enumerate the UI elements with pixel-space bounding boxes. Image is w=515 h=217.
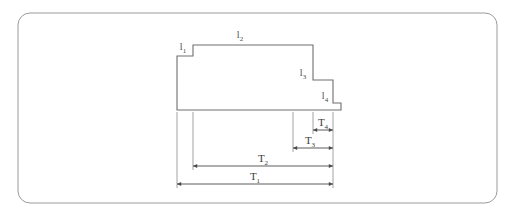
arrow-left-T2 (193, 164, 197, 168)
arrow-right-T4 (329, 128, 333, 132)
dim-label-T3: T3 (305, 134, 316, 149)
length-label-l2: l2 (237, 29, 244, 43)
step-profile-outline (177, 45, 341, 110)
dimension-labels: T4T3T2T1 (250, 116, 329, 185)
figure-canvas: l1l2l3l4 T4T3T2T1 (0, 0, 515, 217)
arrow-left-T1 (177, 182, 181, 186)
step-profile-dimension-figure: l1l2l3l4 T4T3T2T1 (0, 0, 515, 217)
arrow-right-T2 (329, 164, 333, 168)
arrow-left-T3 (293, 146, 297, 150)
arrow-right-T1 (329, 182, 333, 186)
length-label-l1: l1 (180, 41, 187, 55)
arrow-left-T4 (313, 128, 317, 132)
arrow-right-T3 (329, 146, 333, 150)
length-labels: l1l2l3l4 (180, 29, 329, 104)
rounded-border (18, 13, 497, 203)
length-label-l4: l4 (322, 90, 329, 104)
dim-label-T4: T4 (318, 116, 329, 131)
dim-label-T1: T1 (250, 170, 261, 185)
length-label-l3: l3 (300, 67, 307, 81)
dim-label-T2: T2 (258, 152, 269, 167)
